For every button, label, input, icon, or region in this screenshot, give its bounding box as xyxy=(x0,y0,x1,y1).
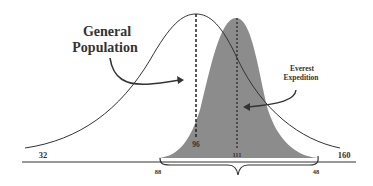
axis-label-96: 96 xyxy=(192,140,200,149)
general-label-line2: Population xyxy=(72,40,138,55)
bell-curve-diagram: General Population Everest Expedition 32… xyxy=(0,0,373,186)
axis-label-160: 160 xyxy=(338,150,351,160)
axis-label-111: 111 xyxy=(232,151,241,158)
general-label-line1: General xyxy=(83,24,131,39)
everest-label-line2: Expedition xyxy=(283,73,319,82)
everest-label-line1: Everest xyxy=(290,64,315,73)
range-brace xyxy=(160,156,318,175)
axis-label-48: 48 xyxy=(313,168,320,175)
general-population-arrow xyxy=(110,58,180,84)
axis-label-32: 32 xyxy=(39,150,48,160)
everest-distribution-area xyxy=(158,18,318,158)
axis-label-88: 88 xyxy=(155,168,162,175)
general-arrowhead-icon xyxy=(177,76,184,84)
